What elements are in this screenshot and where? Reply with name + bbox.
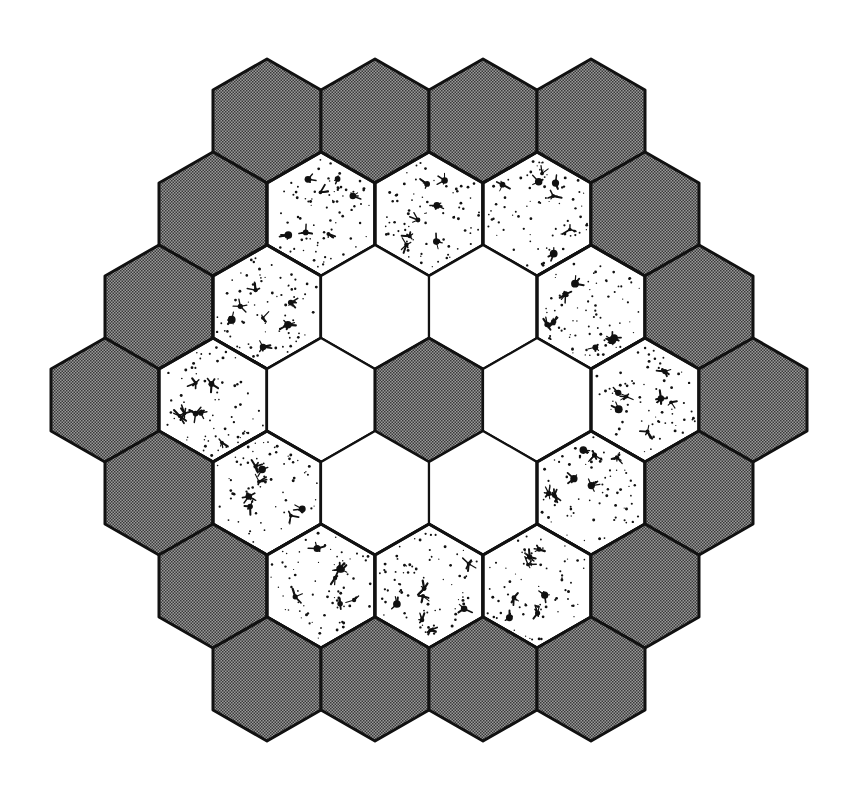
hex-cells — [51, 59, 807, 741]
hex-grid-diagram — [0, 0, 857, 787]
